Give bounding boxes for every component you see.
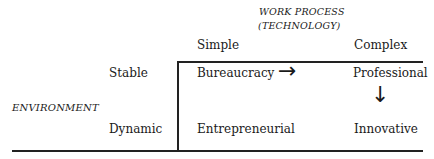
vertical-divider [177,61,179,151]
cell-professional: Professional [353,66,428,80]
row-header-stable: Stable [109,66,148,80]
arrow-right-icon: → [278,60,296,82]
column-axis-title: WORK PROCESS [259,6,345,17]
row-axis-title: ENVIRONMENT [12,102,99,113]
cell-bureaucracy: Bureaucracy [197,66,274,80]
column-axis-subtitle: (TECHNOLOGY) [258,20,341,31]
cell-innovative: Innovative [354,122,418,136]
row-header-dynamic: Dynamic [109,122,162,136]
cell-entrepreneurial: Entrepreneurial [197,122,295,136]
top-border [177,61,423,63]
column-header-simple: Simple [197,38,239,52]
arrow-down-icon: ↓ [371,84,389,106]
bottom-border [12,150,423,152]
column-header-complex: Complex [354,38,407,52]
